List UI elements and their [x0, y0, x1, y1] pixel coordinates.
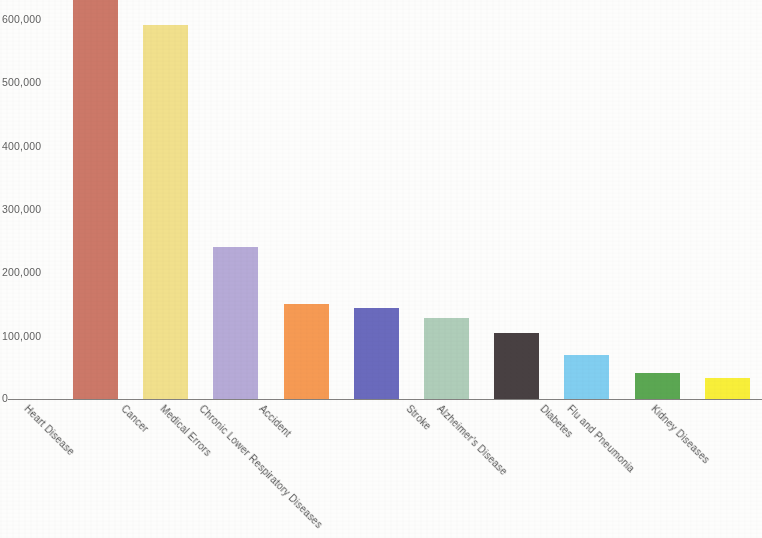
- bar-fill: [73, 0, 118, 399]
- bar-stroke[interactable]: [424, 318, 469, 399]
- x-axis-label-flu-and-pneumonia: Flu and Pneumonia: [565, 403, 637, 475]
- bar-fill: [494, 333, 539, 399]
- x-axis-label-chronic-lower-respiratory-diseases: Chronic Lower Respiratory Diseases: [197, 403, 324, 530]
- bar-accident[interactable]: [284, 304, 329, 399]
- bar-fill: [213, 247, 258, 399]
- bar-diabetes[interactable]: [564, 355, 609, 399]
- bar-fill: [635, 373, 680, 399]
- bar-fill: [354, 308, 399, 399]
- x-axis-label-alzheimers-disease: Alzheimer's Disease: [435, 403, 509, 477]
- bar-chronic-lower-respiratory-diseases[interactable]: [354, 308, 399, 399]
- bar-heart-disease[interactable]: [73, 0, 118, 399]
- x-axis-label-stroke: Stroke: [404, 403, 433, 432]
- bar-fill: [284, 304, 329, 399]
- bar-fill: [143, 25, 188, 399]
- x-axis-labels: Heart Disease Cancer Medical Errors Acci…: [0, 399, 762, 538]
- x-axis-label-cancer: Cancer: [119, 403, 150, 434]
- bar-alzheimers-disease[interactable]: [494, 333, 539, 399]
- x-axis-label-heart-disease: Heart Disease: [22, 403, 76, 457]
- bar-kidney-diseases[interactable]: [705, 378, 750, 399]
- bar-medical-errors[interactable]: [213, 247, 258, 399]
- bar-flu-and-pneumonia[interactable]: [635, 373, 680, 399]
- bar-fill: [564, 355, 609, 399]
- bar-chart-figure: 600,000 500,000 400,000 300,000 200,000 …: [0, 0, 762, 538]
- bar-fill: [705, 378, 750, 399]
- x-axis-label-kidney-diseases: Kidney Diseases: [649, 403, 712, 466]
- x-axis-label-accident: Accident: [257, 403, 293, 439]
- bar-cancer[interactable]: [143, 25, 188, 399]
- bars-layer: [0, 0, 762, 399]
- bar-fill: [424, 318, 469, 399]
